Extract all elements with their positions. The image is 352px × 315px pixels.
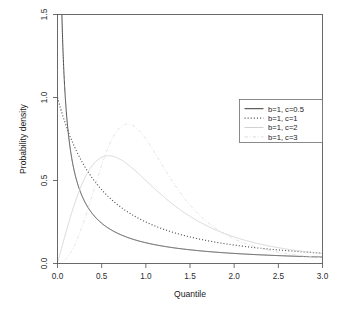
x-axis-title: Quantile bbox=[174, 289, 206, 299]
legend-label: b=1, c=1 bbox=[268, 114, 298, 123]
legend-label: b=1, c=0.5 bbox=[268, 105, 304, 114]
y-tick-label: 0.0 bbox=[40, 257, 49, 269]
chart-figure: 0.00.51.01.52.02.53.00.00.51.01.5Quantil… bbox=[0, 0, 352, 315]
y-tick-label: 0.5 bbox=[40, 174, 49, 186]
y-tick-label: 1.5 bbox=[40, 8, 49, 20]
legend-label: b=1, c=2 bbox=[268, 123, 298, 132]
legend-group: b=1, c=0.5b=1, c=1b=1, c=2b=1, c=3 bbox=[240, 100, 323, 143]
x-tick-label: 0.0 bbox=[52, 272, 64, 281]
series-line bbox=[58, 124, 323, 263]
x-tick-label: 1.0 bbox=[140, 272, 152, 281]
x-tick-label: 3.0 bbox=[317, 272, 329, 281]
x-tick-label: 2.5 bbox=[273, 272, 285, 281]
plot-canvas: 0.00.51.01.52.02.53.00.00.51.01.5Quantil… bbox=[0, 0, 352, 315]
legend-label: b=1, c=3 bbox=[268, 133, 298, 142]
x-tick-label: 2.0 bbox=[228, 272, 240, 281]
x-tick-label: 1.5 bbox=[184, 272, 196, 281]
series-line bbox=[58, 156, 323, 264]
x-tick-label: 0.5 bbox=[96, 272, 108, 281]
y-axis-title: Probability density bbox=[18, 103, 28, 173]
y-tick-label: 1.0 bbox=[40, 91, 49, 103]
